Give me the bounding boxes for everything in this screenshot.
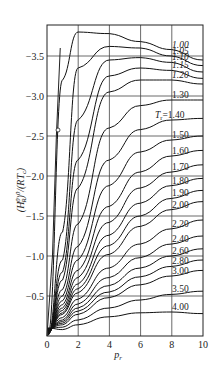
curve-label: 4.00 bbox=[172, 302, 189, 312]
curve-label: 1.60 bbox=[172, 146, 189, 156]
curve-label: 1.50 bbox=[172, 130, 189, 140]
x-tick: 0 bbox=[45, 339, 50, 350]
curve-label: 2.60 bbox=[172, 246, 189, 256]
curve-label: 1.70 bbox=[172, 162, 189, 172]
curve-label: 2.20 bbox=[172, 219, 189, 229]
curve-label: 2.40 bbox=[172, 234, 189, 244]
x-tick-labels: 0246810 bbox=[45, 339, 209, 350]
x-tick: 4 bbox=[107, 339, 112, 350]
curve-label: 2.00 bbox=[172, 200, 189, 210]
x-tick: 6 bbox=[138, 339, 143, 350]
y-tick-labels: −0.5−1.0−1.5−2.0−2.5−3.0−3.5 bbox=[26, 51, 44, 302]
x-axis-label: pr bbox=[113, 349, 122, 362]
x-tick: 10 bbox=[198, 339, 208, 350]
curve-label: 1.15 bbox=[172, 60, 189, 70]
y-tick: −1.0 bbox=[26, 251, 44, 262]
y-tick: −0.5 bbox=[26, 291, 44, 302]
y-tick: −3.0 bbox=[26, 91, 44, 102]
enthalpy-departure-chart: 1.001.051.101.151.201.30Tr=1.401.501.601… bbox=[0, 0, 218, 378]
y-tick: −3.5 bbox=[26, 51, 44, 62]
curve-label: 1.20 bbox=[172, 70, 189, 80]
curve-label: 1.80 bbox=[172, 176, 189, 186]
envelope-curve bbox=[47, 48, 60, 336]
marker-circle bbox=[56, 128, 60, 132]
curve-label: 3.00 bbox=[172, 266, 189, 276]
y-tick: −2.5 bbox=[26, 131, 44, 142]
x-tick: 8 bbox=[169, 339, 174, 350]
x-tick: 2 bbox=[76, 339, 81, 350]
y-axis-label: (H0R)0/(RTc) bbox=[14, 167, 27, 212]
curve-label: 2.80 bbox=[172, 256, 189, 266]
curve-label: Tr=1.40 bbox=[155, 110, 185, 121]
y-tick: −2.0 bbox=[26, 171, 44, 182]
curve-label: 1.90 bbox=[172, 188, 189, 198]
curve-label: 3.50 bbox=[172, 284, 189, 294]
y-tick: −1.5 bbox=[26, 211, 44, 222]
curve-tr-4.00 bbox=[48, 312, 203, 330]
curve-label: 1.30 bbox=[172, 90, 189, 100]
